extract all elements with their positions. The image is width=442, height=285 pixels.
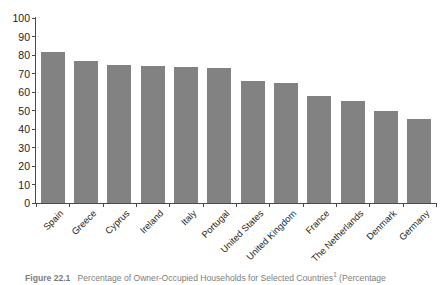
x-axis-tick-mark — [336, 203, 337, 207]
x-axis-tick-mark — [169, 203, 170, 207]
bar-slot — [341, 18, 365, 203]
x-axis-label: Portugal — [201, 209, 232, 240]
y-axis-tick-label: 20 — [18, 161, 36, 172]
bar[interactable] — [241, 81, 265, 203]
x-axis-label: Germany — [398, 209, 432, 243]
x-axis-label: Greece — [70, 209, 98, 237]
bar-slot — [241, 18, 265, 203]
y-axis-tick-label: 30 — [18, 142, 36, 153]
bar-slot — [174, 18, 198, 203]
y-axis-tick-label: 40 — [18, 124, 36, 135]
bar[interactable] — [41, 52, 65, 203]
x-axis-tick-mark — [403, 203, 404, 207]
y-axis-tick-label: 10 — [18, 179, 36, 190]
bar-slot — [207, 18, 231, 203]
figure-caption-footnote: 1 — [333, 271, 337, 278]
figure-caption: Figure 22.1 Percentage of Owner-Occupied… — [25, 269, 442, 285]
x-axis-tick-mark — [303, 203, 304, 207]
bar[interactable] — [141, 66, 165, 203]
bar[interactable] — [74, 61, 98, 203]
x-axis-label: Italy — [180, 209, 199, 228]
plot-area: 0102030405060708090100 — [36, 18, 436, 203]
y-axis-tick-label: 80 — [18, 50, 36, 61]
bar[interactable] — [274, 83, 298, 203]
x-axis-tick-mark — [136, 203, 137, 207]
bar[interactable] — [407, 119, 431, 203]
y-axis-tick-label: 100 — [12, 13, 36, 24]
figure-container: 0102030405060708090100 SpainGreeceCyprus… — [0, 0, 442, 285]
x-axis-tick-mark — [236, 203, 237, 207]
bar[interactable] — [374, 111, 398, 203]
x-axis-tick-mark — [69, 203, 70, 207]
bar-series — [36, 18, 436, 203]
bar[interactable] — [107, 65, 131, 203]
bar[interactable] — [341, 101, 365, 203]
bar-slot — [41, 18, 65, 203]
y-axis-tick-label: 90 — [18, 31, 36, 42]
y-axis-tick-label: 0 — [24, 198, 36, 209]
bar-slot — [407, 18, 431, 203]
figure-caption-text: Percentage of Owner-Occupied Households … — [78, 273, 334, 283]
bar-slot — [107, 18, 131, 203]
x-axis-tick-mark — [36, 203, 37, 207]
bar[interactable] — [207, 68, 231, 203]
figure-number: Figure 22.1 — [25, 273, 70, 283]
x-axis-label: Cyprus — [105, 209, 132, 236]
bar[interactable] — [174, 67, 198, 203]
x-axis-label: Spain — [42, 209, 65, 232]
bar-slot — [74, 18, 98, 203]
bar-slot — [274, 18, 298, 203]
y-axis-tick-label: 70 — [18, 68, 36, 79]
bar[interactable] — [307, 96, 331, 203]
bar-slot — [307, 18, 331, 203]
x-axis-label: Denmark — [365, 209, 398, 242]
x-axis-tick-mark — [103, 203, 104, 207]
x-axis-label: France — [305, 209, 332, 236]
y-axis-tick-label: 50 — [18, 105, 36, 116]
x-axis-tick-mark — [203, 203, 204, 207]
bar-slot — [374, 18, 398, 203]
x-axis-tick-mark — [436, 203, 437, 207]
y-axis-tick-label: 60 — [18, 87, 36, 98]
bar-slot — [141, 18, 165, 203]
x-axis-tick-mark — [369, 203, 370, 207]
x-axis-tick-mark — [269, 203, 270, 207]
figure-caption-tail: (Percentage — [339, 273, 386, 283]
x-axis-label: Ireland — [139, 209, 166, 236]
